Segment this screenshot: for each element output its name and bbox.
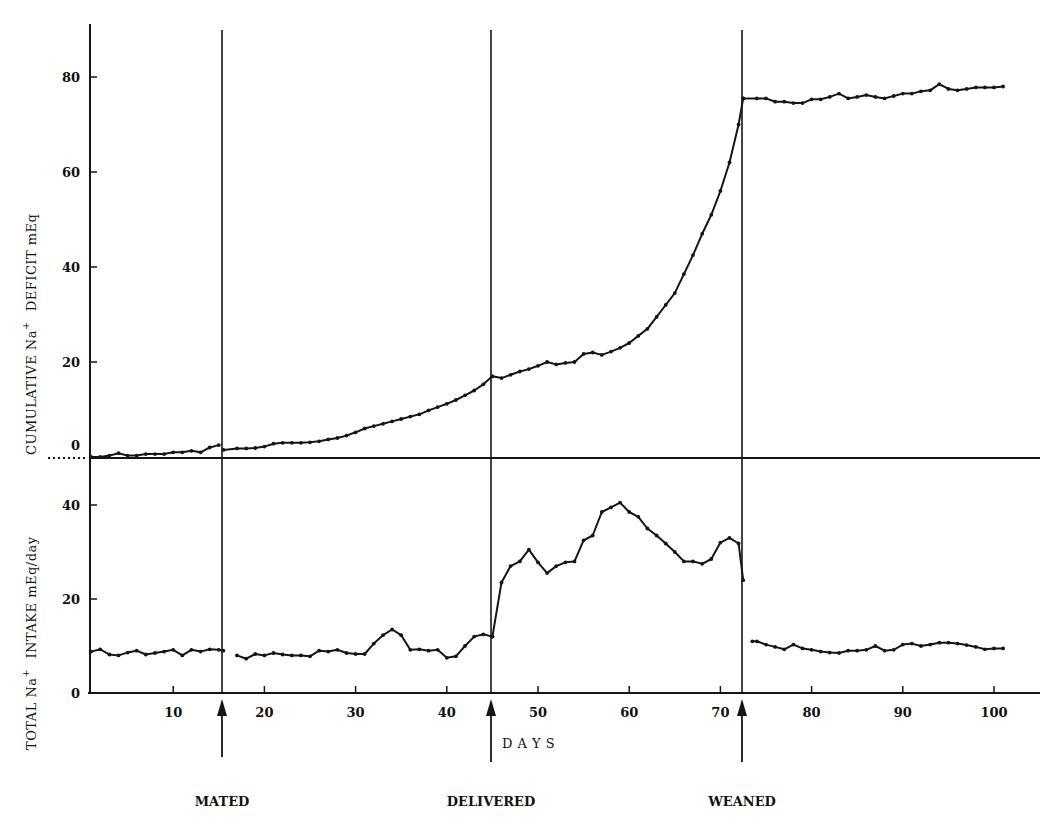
data-point [190,449,194,453]
bottom-y-axis-title: TOTAL Na+INTAKE mEq/day [20,536,39,750]
data-point [272,442,276,446]
data-point [554,363,558,367]
data-point [947,641,951,645]
data-point [764,97,768,101]
data-point [810,97,814,101]
top-y-axis-title: CUMULATIVE Na+DEFICIT mEq [20,214,39,455]
data-point [819,650,823,654]
data-point [573,560,577,564]
data-point [536,560,540,564]
data-point [828,95,832,99]
data-point [600,510,604,514]
data-point [290,441,294,445]
data-point [655,534,659,538]
data-point [381,633,385,637]
data-point [728,161,732,165]
data-point [764,643,768,647]
data-point [108,454,112,458]
data-point [709,213,713,217]
data-point [527,548,531,552]
data-point [427,649,431,653]
data-point [636,334,640,338]
data-point [928,643,932,647]
data-point [472,635,476,639]
data-point [545,360,549,364]
data-point [89,455,93,459]
data-point [408,415,412,419]
data-point [509,373,513,377]
chart-canvas: 02040608002040102030405060708090100 MATE… [0,0,1056,822]
x-tick-label: 40 [438,705,456,720]
data-point [646,527,650,531]
data-point [655,315,659,319]
data-point [527,367,531,371]
data-point [463,393,467,397]
data-point [162,650,166,654]
data-point [135,454,139,458]
data-point [719,541,723,545]
data-point [609,350,613,354]
data-point [755,639,759,643]
data-point [308,654,312,658]
data-point [846,97,850,101]
data-point [801,647,805,651]
data-point [199,450,203,454]
data-series [89,82,1005,660]
data-point [336,648,340,652]
data-point [299,654,303,658]
y-tick-label: 80 [62,70,80,85]
data-point [591,534,595,538]
y-tick-label: 20 [62,355,80,370]
data-point [709,557,713,561]
event-arrow-head [486,699,496,716]
y-tick-label: 60 [62,165,80,180]
data-point [782,100,786,104]
data-point [728,536,732,540]
data-point [336,436,340,440]
data-point [363,652,367,656]
data-point [180,450,184,454]
data-point [454,398,458,402]
data-point [418,647,422,651]
total_intake-line [752,641,1003,653]
axis-labels: CUMULATIVE Na+DEFICIT mEq TOTAL Na+INTAK… [20,214,555,751]
data-point [235,654,239,658]
data-point [117,451,121,455]
x-tick-label: 50 [529,705,547,720]
data-point [846,649,850,653]
data-point [874,644,878,648]
y-tick-label: 20 [62,592,80,607]
data-point [892,648,896,652]
data-point [436,405,440,409]
data-point [965,643,969,647]
data-point [208,446,212,450]
data-point [399,417,403,421]
data-point [910,92,914,96]
data-point [354,652,358,656]
data-point [627,341,631,345]
data-point [992,86,996,90]
data-point [253,652,257,656]
data-point [317,649,321,653]
data-point [741,97,745,101]
data-point [317,439,321,443]
data-point [518,370,522,374]
y-tick-label: 0 [71,686,80,701]
data-point [573,360,577,364]
data-point [472,389,476,393]
data-point [491,374,495,378]
data-point [427,409,431,413]
data-point [992,647,996,651]
data-point [144,452,148,456]
data-point [782,647,786,651]
data-point [828,651,832,655]
data-point [974,86,978,90]
data-point [135,649,139,653]
event-label-delivered: DELIVERED [447,794,535,809]
data-point [937,82,941,86]
data-point [1001,85,1005,89]
data-point [217,443,221,447]
data-point [208,647,212,651]
data-point [463,644,467,648]
event-label-weaned: WEANED [707,794,776,809]
